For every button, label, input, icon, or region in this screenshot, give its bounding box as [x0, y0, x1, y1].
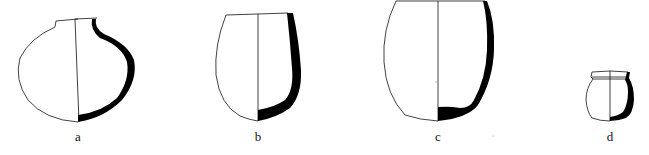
vessel-b-section	[258, 13, 301, 121]
vessel-a-centerline	[75, 19, 79, 122]
vessel-d	[586, 71, 634, 121]
label-b: b	[248, 129, 268, 145]
vessel-b	[216, 13, 301, 121]
vessel-c	[384, 1, 494, 137]
vessel-a-section	[78, 19, 135, 122]
vessel-c-outline	[384, 1, 438, 121]
label-d: d	[600, 129, 620, 145]
label-a: a	[68, 129, 88, 145]
label-c: c	[428, 129, 448, 145]
vessel-c-section	[438, 1, 494, 121]
vessel-a	[18, 18, 135, 122]
vessel-d-outline	[586, 71, 610, 121]
vessel-b-outline	[216, 14, 258, 121]
vessel-a-outline	[18, 19, 78, 122]
pottery-figure	[0, 0, 649, 155]
